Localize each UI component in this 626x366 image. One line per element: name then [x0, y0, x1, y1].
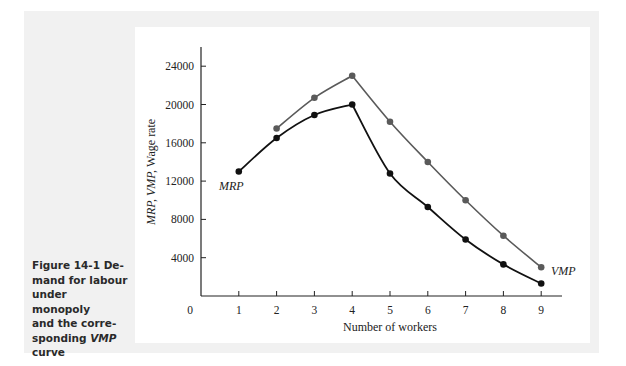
x-tick-label: 5 — [387, 304, 393, 316]
y-tick-label: 4000 — [171, 252, 194, 264]
data-point-vmp — [538, 264, 545, 271]
series-label-vmp: VMP — [551, 264, 576, 278]
x-tick-label: 0 — [187, 304, 193, 316]
data-point-vmp — [500, 232, 507, 239]
data-point-vmp — [425, 159, 432, 166]
data-point-vmp — [462, 197, 469, 204]
x-tick-label: 9 — [538, 304, 544, 316]
data-point-mrp — [236, 168, 243, 175]
x-tick-label: 2 — [274, 304, 280, 316]
y-tick-label: 12000 — [165, 175, 194, 187]
data-point-vmp — [349, 72, 356, 79]
data-point-mrp — [387, 170, 394, 177]
y-axis-title-part: Wage rate — [144, 119, 158, 167]
x-tick-label: 6 — [425, 304, 431, 316]
data-point-vmp — [311, 94, 318, 101]
data-point-vmp — [273, 125, 280, 132]
series-line-mrp — [239, 105, 541, 284]
data-point-mrp — [273, 135, 280, 142]
data-point-mrp — [349, 101, 356, 108]
data-point-mrp — [538, 280, 545, 287]
x-axis-title: Number of workers — [343, 320, 437, 334]
data-point-mrp — [462, 236, 469, 243]
y-tick-label: 16000 — [165, 137, 194, 149]
line-chart: 40008000120001600020000240000123456789Nu… — [0, 0, 626, 366]
series-line-vmp — [277, 76, 542, 268]
data-point-mrp — [500, 261, 507, 268]
x-tick-label: 3 — [312, 304, 318, 316]
x-tick-label: 1 — [236, 304, 242, 316]
y-axis-title-part: MRP, — [144, 196, 158, 226]
data-point-mrp — [425, 204, 432, 211]
x-tick-label: 4 — [349, 304, 355, 316]
y-tick-label: 8000 — [171, 213, 194, 225]
data-point-mrp — [311, 112, 318, 119]
y-tick-label: 24000 — [165, 60, 194, 72]
y-axis-title-part: VMP, — [144, 167, 158, 196]
series-label-mrp: MRP — [218, 179, 244, 193]
x-tick-label: 8 — [501, 304, 507, 316]
x-tick-label: 7 — [463, 304, 469, 316]
y-tick-label: 20000 — [165, 99, 194, 111]
data-point-vmp — [387, 118, 394, 125]
y-axis-title: MRP, VMP, Wage rate — [144, 119, 158, 226]
